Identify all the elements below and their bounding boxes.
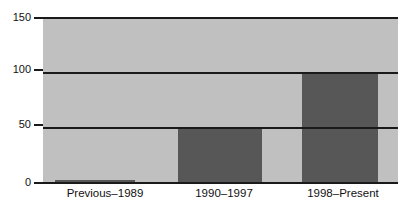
y-axis-tick-label-0: 0 — [0, 177, 31, 188]
y-axis-tick-label-50: 50 — [0, 119, 31, 130]
x-axis-label-1990-1997: 1990–1997 — [170, 187, 278, 199]
bar-1990-1997 — [178, 128, 262, 183]
plot-area — [43, 18, 398, 183]
y-axis-tick-mark-0 — [34, 182, 43, 184]
y-axis-tick-mark-100 — [34, 69, 43, 71]
gridline-50 — [43, 127, 398, 129]
y-axis-tick-label-100: 100 — [0, 64, 31, 75]
y-axis-tick-mark-50 — [34, 124, 43, 126]
gridline-0 — [43, 182, 398, 184]
gridline-100 — [43, 72, 398, 74]
bar-chart: 150 100 50 0 Previous–1989 1990–1997 199… — [0, 0, 420, 212]
y-axis-tick-mark-150 — [34, 17, 43, 19]
gridline-150 — [43, 17, 398, 19]
y-axis-tick-label-150: 150 — [0, 12, 31, 23]
x-axis-label-1998-present: 1998–Present — [288, 187, 398, 199]
x-axis-label-previous-1989: Previous–1989 — [43, 187, 167, 199]
